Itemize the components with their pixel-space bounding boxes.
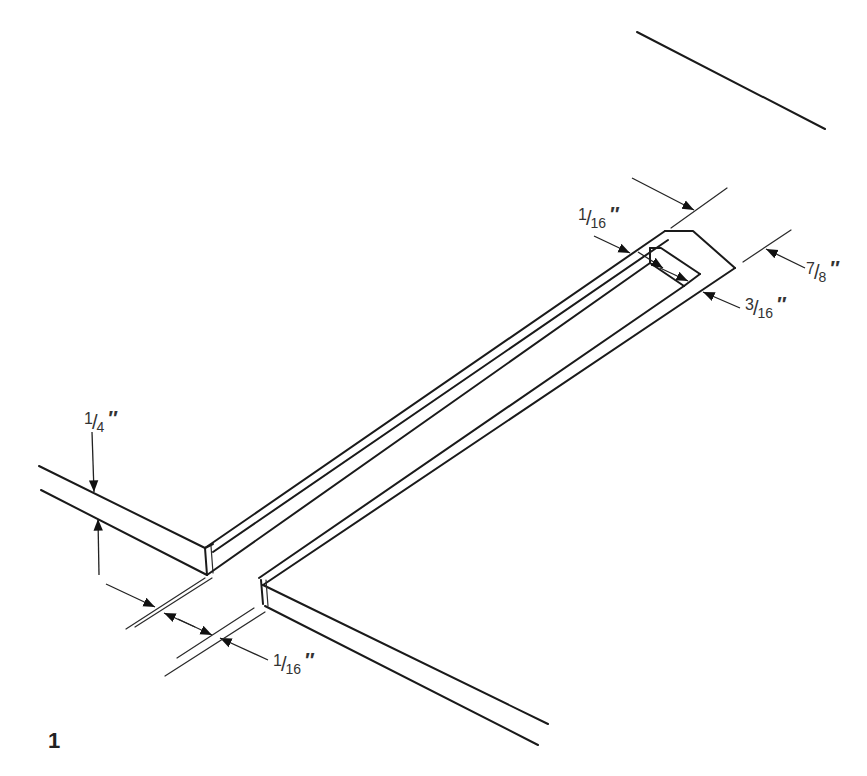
left-strip	[39, 466, 213, 575]
label-strip-width: 7/8″	[806, 262, 839, 282]
diagram-canvas	[0, 0, 867, 776]
far-edge-line	[637, 32, 825, 129]
grooved-strip	[205, 231, 735, 585]
label-groove-lip: 1/16″	[578, 208, 619, 228]
label-groove-inner: 3/16″	[745, 298, 786, 318]
figure-number: 1	[48, 728, 60, 754]
label-gap-bottom: 1/16″	[273, 654, 314, 674]
dim-groove-inner	[703, 292, 740, 308]
label-strip-thickness: 1/4″	[84, 412, 117, 432]
dim-gap-bottom	[106, 578, 268, 676]
dim-strip-thickness	[92, 432, 99, 575]
